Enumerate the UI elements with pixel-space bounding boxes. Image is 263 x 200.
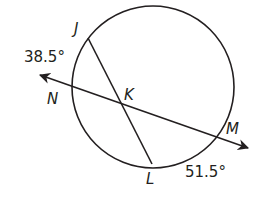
point-label-n: N <box>47 90 58 108</box>
arc-measure-jn: 38.5° <box>24 48 65 66</box>
point-label-k: K <box>124 86 135 104</box>
circle-diagram: J N K L M 38.5° 51.5° <box>0 0 263 200</box>
arc-measure-lm: 51.5° <box>185 163 226 181</box>
line-nm <box>40 75 248 148</box>
point-label-m: M <box>226 120 239 138</box>
point-label-j: J <box>71 20 78 38</box>
circle <box>72 6 234 168</box>
point-label-l: L <box>146 170 154 188</box>
